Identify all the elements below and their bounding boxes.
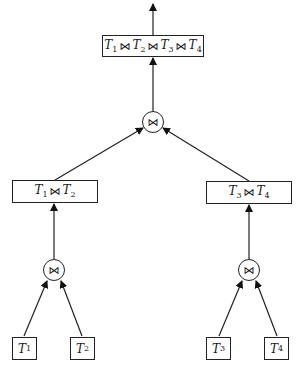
leaf-relation-t2: T2	[70, 337, 95, 360]
leaf-relation-t3: T3	[206, 337, 231, 360]
left-join-result-box: T1 ⋈ T2	[12, 180, 98, 203]
edge-t4-rightjoin	[256, 281, 277, 336]
join-node-top: ⋈	[142, 111, 164, 133]
join-symbol: ⋈	[148, 40, 159, 53]
rel-t4: T4	[257, 184, 270, 200]
rel-t3: T3	[161, 38, 174, 54]
bowtie-join-icon: ⋈	[148, 116, 159, 129]
join-node-left: ⋈	[43, 259, 65, 281]
rel-t4: T4	[189, 38, 202, 54]
join-symbol: ⋈	[244, 186, 255, 199]
rel-t2: T2	[63, 183, 76, 199]
leaf-relation-t4: T4	[264, 337, 289, 360]
bowtie-join-icon: ⋈	[49, 264, 60, 277]
join-symbol: ⋈	[119, 40, 130, 53]
edge-leftbox-topjoin	[55, 128, 143, 180]
rel-t1: T1	[104, 38, 117, 54]
leaf-relation-t1: T1	[12, 337, 37, 360]
root-join-result-box: T1 ⋈ T2 ⋈ T3 ⋈ T4	[102, 35, 204, 57]
rel-t1: T1	[34, 183, 47, 199]
join-node-right: ⋈	[238, 259, 260, 281]
join-symbol: ⋈	[176, 40, 187, 53]
edge-t2-leftjoin	[61, 281, 82, 336]
edge-rightbox-topjoin	[163, 128, 249, 181]
rel-t2: T2	[132, 38, 145, 54]
edge-t1-leftjoin	[24, 281, 47, 336]
edge-t3-rightjoin	[219, 281, 242, 336]
join-symbol: ⋈	[50, 185, 61, 198]
rel-t3: T3	[228, 184, 241, 200]
bowtie-join-icon: ⋈	[244, 264, 255, 277]
right-join-result-box: T3 ⋈ T4	[206, 181, 292, 204]
